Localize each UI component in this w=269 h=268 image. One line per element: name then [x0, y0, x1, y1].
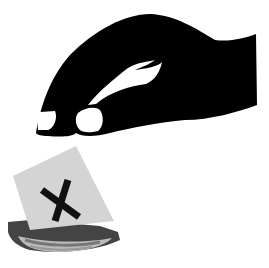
ballot-paper-icon — [13, 146, 114, 230]
hand-icon — [36, 14, 257, 137]
voting-illustration: Black silhouette hand dropping a ballot … — [0, 0, 269, 268]
